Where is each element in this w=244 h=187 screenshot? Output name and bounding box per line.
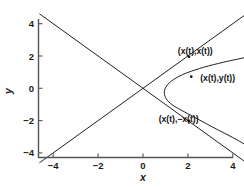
- x-tick-label: 2: [185, 160, 190, 171]
- y-axis-title: y: [2, 87, 14, 95]
- annotation-anchor-dot: [188, 56, 191, 59]
- y-tick-label: 4: [29, 18, 35, 29]
- figure-container: −4−2024 −4−2024 x y (x(t),x(t))(x(t),y(t…: [0, 0, 244, 187]
- annotation-anchor-dot: [188, 120, 191, 123]
- x-axis-title: x: [139, 171, 147, 183]
- annotation-label: (x(t),y(t)): [200, 73, 235, 83]
- y-tick-label: −4: [23, 147, 35, 158]
- x-tick-label: 0: [140, 160, 145, 171]
- x-tick-label: −2: [93, 160, 104, 171]
- x-tick-label: −4: [48, 160, 60, 171]
- y-tick-label: 2: [29, 51, 34, 62]
- y-tick-label: −2: [23, 115, 34, 126]
- annotation-anchor-dot: [190, 75, 193, 78]
- x-tick-label: 4: [230, 160, 236, 171]
- plot-background: [0, 0, 244, 187]
- annotation-label: (x(t),x(t)): [178, 46, 213, 56]
- plot-canvas: −4−2024 −4−2024 x y (x(t),x(t))(x(t),y(t…: [0, 0, 244, 187]
- y-tick-label: 0: [29, 83, 34, 94]
- annotation-label: (x(t),−x(t)): [159, 114, 199, 124]
